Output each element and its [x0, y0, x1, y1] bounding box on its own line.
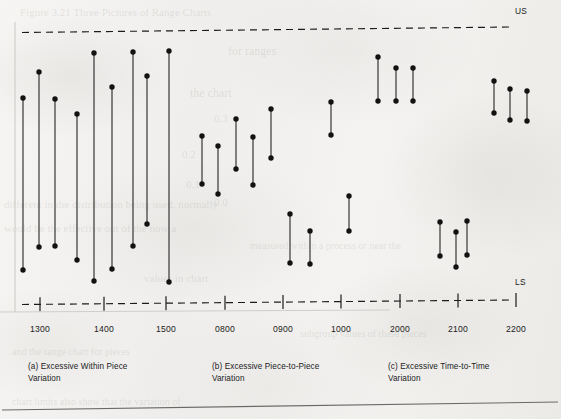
subfigure-caption-c: (c) Excessive Time-to-Time Variation [388, 361, 489, 384]
range-endpoint-top [507, 86, 512, 91]
axis-tick-label: 1500 [156, 324, 176, 334]
range-segment [491, 78, 496, 115]
range-segment [36, 69, 41, 249]
range-endpoint-top [215, 143, 220, 148]
subfigure-caption-b: (b) Excessive Piece-to-Piece Variation [212, 361, 319, 384]
range-endpoint-bottom [307, 261, 312, 266]
upper-spec-limit-line [22, 27, 512, 33]
range-endpoint-top [346, 193, 351, 198]
range-segment [437, 219, 442, 258]
range-endpoint-top [437, 219, 442, 224]
axis-baseline [0, 293, 516, 312]
range-endpoint-bottom [215, 191, 220, 196]
range-endpoint-top [375, 54, 380, 59]
range-endpoint-bottom [437, 253, 442, 258]
range-segment [453, 229, 458, 269]
range-endpoint-top [524, 88, 529, 93]
range-endpoint-top [453, 229, 458, 234]
range-segment [410, 65, 415, 103]
range-endpoint-bottom [20, 267, 25, 272]
range-segment [507, 86, 512, 122]
range-segment [52, 96, 57, 248]
range-segment [393, 65, 398, 103]
range-segment [375, 54, 380, 103]
range-endpoint-top [144, 73, 149, 78]
range-endpoint-top [52, 96, 57, 101]
range-endpoint-top [268, 106, 273, 111]
range-endpoint-top [199, 133, 204, 138]
range-endpoint-top [166, 48, 171, 53]
range-endpoint-bottom [199, 181, 204, 186]
axis-tick-label: 0800 [215, 324, 235, 334]
range-endpoint-top [36, 69, 41, 74]
range-segment [130, 49, 135, 248]
axis-tick-label: 1000 [331, 324, 351, 334]
upper-spec-limit-label: US [515, 6, 527, 16]
range-series-b [199, 99, 351, 266]
range-endpoint-bottom [166, 279, 171, 284]
range-chart-figure [0, 0, 561, 419]
range-endpoint-top [328, 99, 333, 104]
range-segment [307, 228, 312, 266]
axis-tick-label: 1300 [30, 324, 50, 334]
range-segment [109, 84, 114, 271]
range-endpoint-top [464, 218, 469, 223]
range-endpoint-bottom [268, 155, 273, 160]
range-segment [166, 48, 171, 284]
range-segment [464, 218, 469, 257]
range-endpoint-bottom [375, 98, 380, 103]
range-endpoint-bottom [507, 117, 512, 122]
range-endpoint-top [491, 78, 496, 83]
range-endpoint-bottom [109, 266, 114, 271]
range-segment [74, 111, 79, 262]
axis-tick-label: 2200 [506, 324, 526, 334]
range-endpoint-bottom [74, 257, 79, 262]
range-endpoint-bottom [287, 260, 292, 265]
range-segment [144, 73, 149, 226]
range-endpoint-bottom [233, 166, 238, 171]
range-segment [346, 193, 351, 233]
range-segment [199, 133, 204, 186]
range-segment [20, 95, 25, 272]
range-segment [91, 50, 96, 283]
faint-page-rule [0, 310, 390, 312]
subfigure-caption-a: (a) Excessive Within Piece Variation [28, 361, 128, 384]
range-endpoint-bottom [52, 243, 57, 248]
range-endpoint-top [91, 50, 96, 55]
lower-spec-limit-label: LS [515, 277, 526, 287]
range-endpoint-bottom [328, 132, 333, 137]
range-endpoint-bottom [36, 244, 41, 249]
range-series-c [375, 54, 529, 269]
lower-spec-limit-line [22, 300, 512, 305]
range-endpoint-top [20, 95, 25, 100]
range-series-a [20, 48, 171, 284]
range-endpoint-top [250, 134, 255, 139]
axis-tick-label: 2000 [390, 324, 410, 334]
axis-tick-label: 0900 [273, 324, 293, 334]
range-segment [215, 143, 220, 196]
range-segment [328, 99, 333, 137]
axis-tick-label: 2100 [448, 324, 468, 334]
spec-limit-lines [22, 27, 512, 305]
range-endpoint-bottom [453, 264, 458, 269]
range-endpoint-top [74, 111, 79, 116]
axis-tick-label: 1400 [94, 324, 114, 334]
range-endpoint-bottom [524, 118, 529, 123]
range-endpoint-top [287, 211, 292, 216]
range-endpoint-top [130, 49, 135, 54]
range-segment [233, 116, 238, 171]
range-endpoint-bottom [130, 243, 135, 248]
range-endpoint-bottom [393, 98, 398, 103]
range-endpoint-top [109, 84, 114, 89]
range-endpoint-top [410, 65, 415, 70]
range-endpoint-bottom [491, 110, 496, 115]
range-endpoint-bottom [91, 278, 96, 283]
range-segment [268, 106, 273, 160]
range-segments-layer [20, 48, 529, 284]
range-endpoint-bottom [144, 221, 149, 226]
range-segment [524, 88, 529, 123]
range-endpoint-top [393, 65, 398, 70]
range-endpoint-bottom [346, 228, 351, 233]
range-endpoint-top [307, 228, 312, 233]
range-segment [250, 134, 255, 187]
